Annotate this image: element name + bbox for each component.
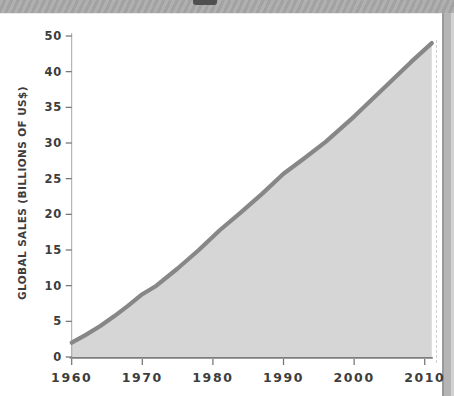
y-tick-label: 30 xyxy=(44,136,62,150)
y-tick-label: 5 xyxy=(53,314,62,328)
x-tick-label: 2000 xyxy=(334,370,375,385)
y-tick-label: 25 xyxy=(44,172,62,186)
y-tick-label: 10 xyxy=(44,279,62,293)
x-tick-label: 2010 xyxy=(404,370,445,385)
y-tick-label: 50 xyxy=(44,29,62,43)
y-tick-label: 0 xyxy=(53,350,62,364)
plot-canvas xyxy=(0,0,454,396)
area-chart: GLOBAL SALES (BILLIONS OF US$) 504035302… xyxy=(0,0,454,396)
scanned-page: GLOBAL SALES (BILLIONS OF US$) 504035302… xyxy=(0,0,454,396)
x-tick-label: 1960 xyxy=(51,370,92,385)
y-tick-label: 40 xyxy=(44,65,62,79)
x-tick-label: 1970 xyxy=(122,370,163,385)
x-tick-label: 1990 xyxy=(263,370,304,385)
y-tick-label: 15 xyxy=(44,243,62,257)
y-tick-label: 35 xyxy=(44,100,62,114)
x-tick-label: 1980 xyxy=(192,370,233,385)
y-axis-title: GLOBAL SALES (BILLIONS OF US$) xyxy=(16,86,28,300)
y-tick-label: 20 xyxy=(44,207,62,221)
